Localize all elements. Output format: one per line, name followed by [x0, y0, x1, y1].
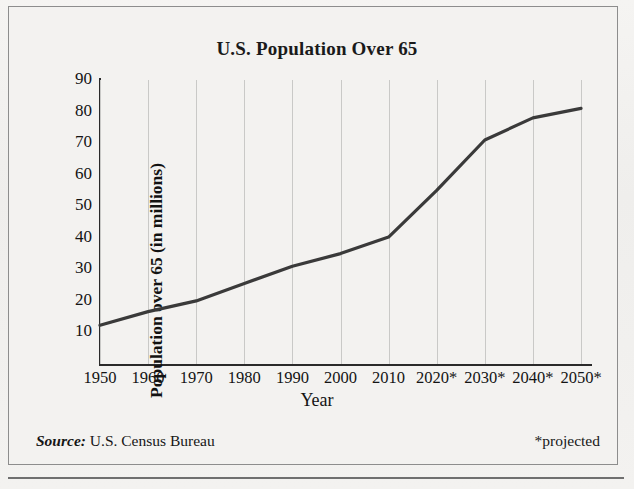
x-tick-label: 2030*: [464, 368, 505, 388]
y-tick-label: 50: [52, 195, 92, 215]
plot-area: Population over 65 (in millions): [100, 80, 592, 364]
x-tick-label: 1980: [228, 368, 261, 388]
y-tick-label: 20: [52, 290, 92, 310]
x-tick-label: 1990: [276, 368, 309, 388]
y-tick-label: 60: [52, 164, 92, 184]
y-tick-label: 70: [52, 132, 92, 152]
projected-footnote: *projected: [535, 432, 600, 450]
x-tick-label: 2040*: [512, 368, 553, 388]
gridline: [437, 80, 438, 364]
gridline: [485, 80, 486, 364]
x-tick-label: 2010: [372, 368, 405, 388]
gridline: [292, 80, 293, 364]
gridline: [244, 80, 245, 364]
x-tick-label: 2020*: [416, 368, 457, 388]
x-tick-label: 1970: [180, 368, 213, 388]
gridline: [533, 80, 534, 364]
x-tick-label: 1950: [84, 368, 117, 388]
source-text: U.S. Census Bureau: [90, 432, 215, 449]
gridline: [581, 80, 582, 364]
y-tick-label: 30: [52, 258, 92, 278]
gridline: [100, 80, 101, 364]
gridline: [389, 80, 390, 364]
y-tick-label: 90: [52, 69, 92, 89]
y-tick-label: 80: [52, 101, 92, 121]
x-tick-label: 2000: [324, 368, 357, 388]
gridline: [341, 80, 342, 364]
x-axis-title: Year: [0, 390, 634, 411]
x-tick-label: 2050*: [560, 368, 601, 388]
y-tick-label: 10: [52, 321, 92, 341]
source-note: Source: U.S. Census Bureau: [36, 432, 215, 450]
y-tick-label: 40: [52, 227, 92, 247]
x-axis-line: [99, 364, 592, 366]
x-tick-label: 1960: [132, 368, 165, 388]
source-label: Source:: [36, 432, 86, 449]
gridline: [196, 80, 197, 364]
figure-page: U.S. Population Over 65 1020304050607080…: [0, 0, 634, 489]
